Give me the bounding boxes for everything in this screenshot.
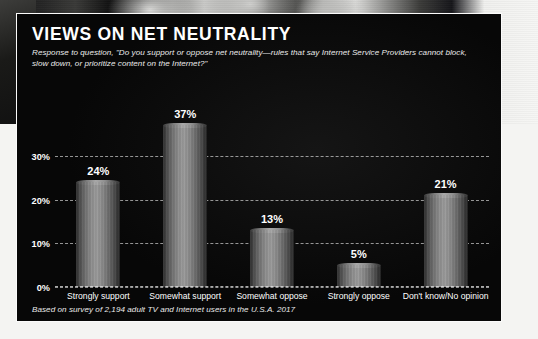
bar[interactable]	[337, 265, 381, 287]
page-title: VIEWS ON NET NEUTRALITY	[32, 24, 291, 45]
bar[interactable]	[76, 182, 120, 287]
bar[interactable]	[424, 195, 468, 287]
y-axis-tick-label: 30%	[32, 152, 50, 162]
gridline: 0%	[55, 287, 489, 288]
bar[interactable]	[250, 230, 294, 287]
chart-subtitle: Response to question, "Do you support or…	[32, 47, 484, 70]
bar-chart-plot-area: 0%10%20%30% 24%Strongly support37%Somewh…	[55, 112, 489, 287]
bar-value-label: 13%	[250, 213, 294, 225]
bar-group: 37%Somewhat support	[163, 112, 207, 287]
x-axis-category-label: Somewhat oppose	[224, 291, 320, 301]
y-axis-tick-label: 10%	[32, 239, 50, 249]
bar-value-label: 5%	[337, 248, 381, 260]
bar-value-label: 24%	[76, 165, 120, 177]
bar[interactable]	[163, 125, 207, 287]
x-axis-category-label: Don't know/No opinion	[398, 291, 494, 301]
bar-group: 21%Don't know/No opinion	[424, 112, 468, 287]
bar-value-label: 37%	[163, 108, 207, 120]
x-axis-category-label: Strongly oppose	[311, 291, 407, 301]
x-axis-category-label: Somewhat support	[137, 291, 233, 301]
infographic-page: VIEWS ON NET NEUTRALITY Response to ques…	[0, 0, 538, 339]
y-axis-tick-label: 20%	[32, 196, 50, 206]
bar-value-label: 21%	[424, 178, 468, 190]
bar-series: 24%Strongly support37%Somewhat support13…	[55, 112, 489, 287]
bar-group: 13%Somewhat oppose	[250, 112, 294, 287]
x-axis-category-label: Strongly support	[50, 291, 146, 301]
bar-group: 5%Strongly oppose	[337, 112, 381, 287]
chart-footnote: Based on survey of 2,194 adult TV and In…	[32, 305, 295, 314]
chart-panel: VIEWS ON NET NEUTRALITY Response to ques…	[16, 13, 502, 322]
y-axis-tick-label: 0%	[37, 283, 50, 293]
bar-group: 24%Strongly support	[76, 112, 120, 287]
axis-baseline	[55, 286, 489, 287]
